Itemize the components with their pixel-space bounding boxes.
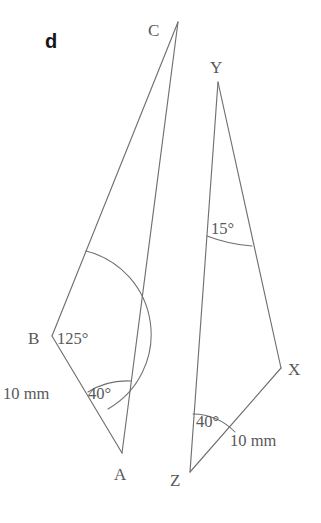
vertex-label-c: C bbox=[148, 21, 159, 40]
side-label-zx-length: 10 mm bbox=[230, 431, 276, 450]
segment-b-a bbox=[52, 336, 122, 453]
segment-c-b bbox=[52, 22, 178, 336]
part-label-d: d bbox=[45, 30, 57, 52]
vertex-label-x: X bbox=[288, 360, 300, 379]
angle-label-y-15: 15° bbox=[211, 219, 234, 238]
segment-c-a bbox=[122, 22, 178, 453]
angle-label-b-125: 125° bbox=[57, 329, 88, 348]
angle-label-z-40: 40° bbox=[196, 412, 219, 431]
side-label-ba-length: 10 mm bbox=[3, 384, 49, 403]
geometry-figure: d C B A 125° 40° 10 mm Y X Z 15° 40° 10 … bbox=[0, 0, 321, 523]
vertex-label-a: A bbox=[114, 465, 127, 484]
angle-label-a-40: 40° bbox=[88, 384, 111, 403]
vertex-label-y: Y bbox=[210, 58, 222, 77]
vertex-label-z: Z bbox=[170, 471, 180, 490]
triangle-abc bbox=[52, 22, 178, 453]
vertex-label-b: B bbox=[28, 329, 39, 348]
